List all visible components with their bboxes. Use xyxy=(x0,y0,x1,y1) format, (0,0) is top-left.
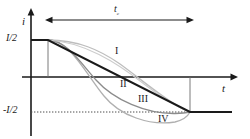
curve-label-IV: IV xyxy=(158,114,169,124)
figure-canvas: i t tc I/2 -I/2 I II III IV xyxy=(0,0,250,139)
y-axis xyxy=(28,8,35,136)
y-tick-label-negative: -I/2 xyxy=(3,105,17,115)
curve-label-III: III xyxy=(138,94,148,104)
y-axis-label: i xyxy=(22,16,25,27)
x-axis xyxy=(22,74,238,81)
waveform-svg xyxy=(0,0,250,139)
curve-II xyxy=(31,40,232,112)
curve-I-companion xyxy=(31,40,190,112)
tc-interval-label: tc xyxy=(114,4,119,16)
x-axis-label: t xyxy=(222,83,225,94)
curve-I xyxy=(31,40,232,112)
tc-subscript: c xyxy=(117,11,119,16)
tc-span-arrow xyxy=(45,17,194,24)
curve-label-II: II xyxy=(120,79,127,89)
y-tick-label-positive: I/2 xyxy=(6,33,17,43)
curve-label-I: I xyxy=(115,46,118,56)
